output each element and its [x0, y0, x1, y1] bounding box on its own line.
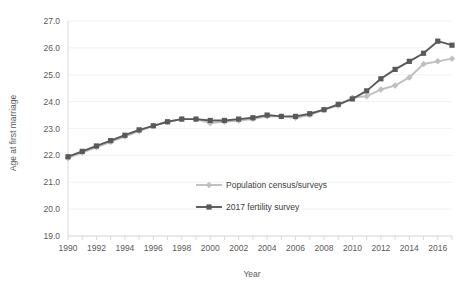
y-tick-label: 21.0 — [43, 177, 60, 187]
data-point-marker — [336, 102, 341, 107]
x-tick-label: 1994 — [115, 243, 134, 253]
x-tick-label: 1996 — [144, 243, 163, 253]
y-axis-title: Age at first marriage — [8, 94, 18, 171]
data-point-marker — [65, 154, 70, 159]
data-point-marker — [151, 123, 156, 128]
y-axis-tick-labels: 19.020.021.022.023.024.025.026.027.0 — [43, 16, 60, 241]
x-tick-label: 2014 — [400, 243, 419, 253]
x-tick-label: 2010 — [343, 243, 362, 253]
x-tick-label: 2008 — [315, 243, 334, 253]
data-point-marker — [179, 116, 184, 121]
data-point-marker — [307, 111, 312, 116]
y-tick-label: 26.0 — [43, 43, 60, 53]
data-point-marker — [108, 138, 113, 143]
data-point-marker — [279, 114, 284, 119]
y-tick-label: 19.0 — [43, 231, 60, 241]
data-point-marker — [94, 143, 99, 148]
data-point-marker — [350, 96, 355, 101]
y-tick-label: 24.0 — [43, 97, 60, 107]
data-point-marker — [393, 67, 398, 72]
data-point-marker — [293, 114, 298, 119]
data-point-marker — [193, 116, 198, 121]
chart-canvas: 19.020.021.022.023.024.025.026.027.0 199… — [0, 0, 460, 289]
data-point-marker — [378, 76, 383, 81]
x-tick-label: 1992 — [87, 243, 106, 253]
data-point-marker — [435, 39, 440, 44]
data-point-marker — [80, 149, 85, 154]
x-tick-label: 2016 — [428, 243, 447, 253]
x-tick-label: 1998 — [172, 243, 191, 253]
x-tick-label: 2012 — [371, 243, 390, 253]
data-point-marker — [265, 112, 270, 117]
data-point-marker — [364, 88, 369, 93]
x-axis-title: Year — [243, 269, 260, 279]
data-point-marker — [122, 133, 127, 138]
x-tick-label: 2000 — [201, 243, 220, 253]
y-tick-label: 23.0 — [43, 124, 60, 134]
x-tick-label: 2004 — [258, 243, 277, 253]
y-tick-label: 22.0 — [43, 150, 60, 160]
data-point-marker — [137, 127, 142, 132]
data-point-marker — [165, 119, 170, 124]
y-tick-label: 27.0 — [43, 16, 60, 26]
data-point-marker — [449, 43, 454, 48]
legend-label: Population census/surveys — [226, 180, 327, 190]
line-chart: 19.020.021.022.023.024.025.026.027.0 199… — [0, 0, 460, 289]
data-point-marker — [222, 118, 227, 123]
legend-label: 2017 fertility survey — [226, 202, 300, 212]
x-tick-label: 1990 — [59, 243, 78, 253]
x-tick-label: 2002 — [229, 243, 248, 253]
data-point-marker — [250, 115, 255, 120]
data-point-marker — [236, 116, 241, 121]
data-point-marker — [407, 59, 412, 64]
y-tick-label: 25.0 — [43, 70, 60, 80]
data-point-marker — [206, 204, 211, 209]
data-point-marker — [321, 107, 326, 112]
x-tick-label: 2006 — [286, 243, 305, 253]
data-point-marker — [208, 118, 213, 123]
data-point-marker — [421, 51, 426, 56]
y-tick-label: 20.0 — [43, 204, 60, 214]
